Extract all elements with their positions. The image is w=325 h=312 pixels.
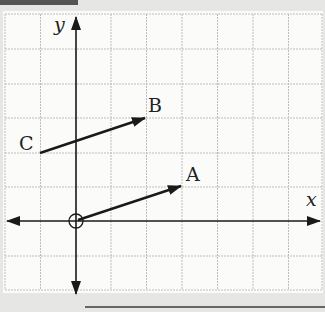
point-label-B: B — [148, 96, 162, 115]
x-axis-label: x — [306, 190, 317, 209]
vector-OA — [78, 186, 181, 220]
coordinate-grid — [0, 0, 325, 312]
y-axis-label: y — [54, 15, 65, 34]
vector-CB — [40, 118, 145, 153]
point-label-C: C — [19, 134, 34, 153]
point-label-A: A — [186, 165, 200, 184]
grid-lines — [5, 14, 322, 290]
